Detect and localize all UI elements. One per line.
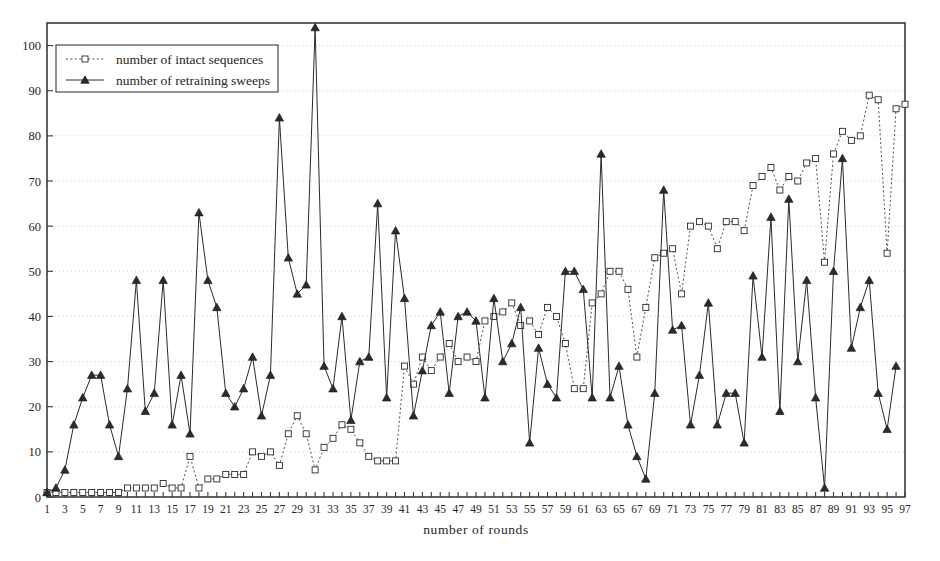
data-point-marker: [160, 480, 166, 486]
x-tick-label-39: 39: [381, 503, 393, 515]
data-point-marker: [232, 471, 238, 477]
data-point-marker: [643, 304, 649, 310]
x-tick-label-21: 21: [220, 503, 232, 515]
data-point-marker: [384, 458, 390, 464]
x-tick-label-33: 33: [327, 503, 339, 515]
y-tick-label-20: 20: [29, 400, 42, 414]
data-point-marker: [813, 155, 819, 161]
y-tick-label-40: 40: [29, 310, 42, 324]
data-point-marker: [571, 386, 577, 392]
x-tick-label-3: 3: [62, 503, 68, 515]
data-point-marker: [214, 476, 220, 482]
x-tick-label-27: 27: [274, 503, 286, 515]
x-tick-label-93: 93: [864, 503, 876, 515]
x-tick-label-47: 47: [452, 503, 464, 515]
data-point-marker: [768, 164, 774, 170]
data-point-marker: [545, 304, 551, 310]
x-tick-label-89: 89: [828, 503, 840, 515]
data-point-marker: [169, 485, 175, 491]
data-point-marker: [536, 331, 542, 337]
data-point-marker: [437, 354, 443, 360]
data-point-marker: [348, 426, 354, 432]
x-tick-label-31: 31: [309, 503, 321, 515]
x-tick-label-57: 57: [542, 503, 554, 515]
x-tick-label-71: 71: [667, 503, 679, 515]
y-tick-label-100: 100: [22, 39, 41, 53]
x-tick-label-97: 97: [899, 503, 911, 515]
data-point-marker: [428, 368, 434, 374]
data-point-marker: [151, 485, 157, 491]
data-point-marker: [732, 219, 738, 225]
data-point-marker: [339, 422, 345, 428]
x-tick-label-55: 55: [524, 503, 536, 515]
y-tick-label-60: 60: [29, 220, 42, 234]
y-tick-label-50: 50: [29, 265, 42, 279]
x-tick-label-85: 85: [792, 503, 804, 515]
data-point-marker: [294, 413, 300, 419]
data-point-marker: [357, 440, 363, 446]
chart-legend: number of intact sequencesnumber of retr…: [56, 45, 278, 92]
data-point-marker: [267, 449, 273, 455]
data-point-marker: [285, 431, 291, 437]
data-point-marker: [330, 435, 336, 441]
data-point-marker: [607, 268, 613, 274]
data-point-marker: [750, 183, 756, 189]
data-point-marker: [116, 489, 122, 495]
data-point-marker: [509, 300, 515, 306]
x-tick-label-51: 51: [488, 503, 500, 515]
data-point-marker: [107, 489, 113, 495]
data-point-marker: [795, 178, 801, 184]
x-tick-label-87: 87: [810, 503, 822, 515]
data-point-marker: [679, 291, 685, 297]
data-point-marker: [366, 453, 372, 459]
data-point-marker: [518, 322, 524, 328]
x-tick-label-7: 7: [98, 503, 104, 515]
data-point-marker: [196, 485, 202, 491]
x-tick-label-37: 37: [363, 503, 375, 515]
data-point-marker: [670, 246, 676, 252]
x-tick-label-41: 41: [399, 503, 411, 515]
legend-square-marker-icon: [82, 56, 88, 62]
data-point-marker: [482, 318, 488, 324]
legend-label: number of intact sequences: [116, 52, 263, 67]
data-point-marker: [393, 458, 399, 464]
data-point-marker: [857, 133, 863, 139]
data-point-marker: [455, 359, 461, 365]
chart-container: 1357911131517192123252729313335373941434…: [0, 0, 940, 561]
data-point-marker: [786, 173, 792, 179]
data-point-marker: [580, 386, 586, 392]
x-tick-label-19: 19: [202, 503, 214, 515]
data-point-marker: [875, 97, 881, 103]
x-tick-label-1: 1: [44, 503, 50, 515]
data-point-marker: [759, 173, 765, 179]
x-tick-label-79: 79: [738, 503, 750, 515]
data-point-marker: [848, 137, 854, 143]
x-tick-label-59: 59: [560, 503, 572, 515]
data-point-marker: [777, 187, 783, 193]
x-tick-label-63: 63: [595, 503, 607, 515]
data-point-marker: [71, 489, 77, 495]
y-tick-label-0: 0: [35, 491, 41, 505]
x-tick-label-77: 77: [721, 503, 733, 515]
data-point-marker: [178, 485, 184, 491]
x-tick-label-67: 67: [631, 503, 643, 515]
data-point-marker: [625, 286, 631, 292]
x-tick-label-91: 91: [846, 503, 858, 515]
data-point-marker: [124, 485, 130, 491]
x-tick-label-5: 5: [80, 503, 86, 515]
data-point-marker: [276, 462, 282, 468]
data-point-marker: [241, 471, 247, 477]
data-point-marker: [741, 228, 747, 234]
x-tick-label-17: 17: [184, 503, 196, 515]
x-tick-label-65: 65: [613, 503, 625, 515]
data-point-marker: [250, 449, 256, 455]
data-point-marker: [142, 485, 148, 491]
x-tick-label-69: 69: [649, 503, 661, 515]
x-tick-label-11: 11: [131, 503, 142, 515]
data-point-marker: [634, 354, 640, 360]
x-tick-label-75: 75: [703, 503, 715, 515]
data-point-marker: [893, 106, 899, 112]
data-point-marker: [661, 250, 667, 256]
data-point-marker: [598, 291, 604, 297]
data-point-marker: [831, 151, 837, 157]
